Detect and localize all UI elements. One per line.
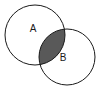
venn-diagram: A B: [0, 0, 99, 97]
venn-canvas: A B: [0, 0, 99, 97]
set-label-b: B: [60, 52, 67, 63]
set-label-a: A: [30, 23, 37, 34]
